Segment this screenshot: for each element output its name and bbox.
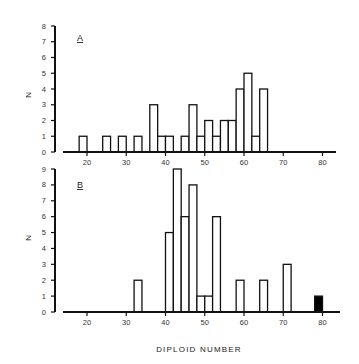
histogram-bar xyxy=(244,73,252,152)
panel-b-label: B xyxy=(77,180,83,190)
x-tick-label: 50 xyxy=(201,158,209,167)
x-tick-label: 80 xyxy=(318,318,326,327)
histogram-bar xyxy=(197,296,205,312)
x-tick-label: 50 xyxy=(201,318,209,327)
x-tick-label: 20 xyxy=(83,318,91,327)
histogram-bar xyxy=(228,121,236,153)
y-tick-label: 3 xyxy=(42,260,46,269)
x-tick-label: 40 xyxy=(161,158,169,167)
y-tick-label: 8 xyxy=(42,22,46,31)
x-tick-label: 20 xyxy=(83,158,91,167)
x-tick-label: 40 xyxy=(161,318,169,327)
histogram-bar xyxy=(205,121,213,153)
histogram-bar xyxy=(315,296,323,312)
histogram-bar xyxy=(150,105,158,152)
y-axis-title-a: N xyxy=(24,92,33,99)
histogram-bar xyxy=(189,105,197,152)
x-tick-label: 70 xyxy=(279,158,287,167)
histogram-bar xyxy=(103,136,111,152)
histogram-bar xyxy=(79,136,87,152)
panel-a-histogram: 01234567820304050607080 xyxy=(42,22,336,167)
x-tick-label: 60 xyxy=(240,158,248,167)
histogram-bar xyxy=(213,217,221,312)
y-tick-label: 7 xyxy=(42,196,46,205)
y-tick-label: 5 xyxy=(42,228,46,237)
y-tick-label: 4 xyxy=(42,244,46,253)
y-tick-label: 6 xyxy=(42,53,46,62)
panel-a-label: A xyxy=(77,33,83,43)
x-tick-label: 30 xyxy=(122,158,130,167)
y-tick-label: 1 xyxy=(42,292,46,301)
histogram-bar xyxy=(118,136,126,152)
histogram-bar xyxy=(260,89,268,152)
histogram-bar xyxy=(205,296,213,312)
histogram-bar xyxy=(189,185,197,312)
histogram-bar xyxy=(252,136,260,152)
y-tick-label: 0 xyxy=(42,308,46,317)
x-tick-label: 70 xyxy=(279,318,287,327)
y-tick-label: 8 xyxy=(42,180,46,189)
x-tick-label: 80 xyxy=(318,158,326,167)
histogram-bar xyxy=(236,280,244,312)
x-tick-label: 60 xyxy=(240,318,248,327)
y-tick-label: 0 xyxy=(42,148,46,157)
y-tick-label: 2 xyxy=(42,276,46,285)
y-tick-label: 4 xyxy=(42,85,46,94)
histogram-bar xyxy=(197,136,205,152)
y-tick-label: 7 xyxy=(42,37,46,46)
histogram-bar xyxy=(134,280,142,312)
histogram-bar xyxy=(158,136,166,152)
y-axis-title-b: N xyxy=(24,235,33,242)
histogram-bar xyxy=(220,121,228,153)
y-tick-label: 6 xyxy=(42,212,46,221)
x-axis-title: DIPLOID NUMBER xyxy=(156,345,242,354)
y-tick-label: 3 xyxy=(42,100,46,109)
histogram-bar xyxy=(181,136,189,152)
histogram-bar xyxy=(213,136,221,152)
histogram-bar xyxy=(173,169,181,312)
y-tick-label: 5 xyxy=(42,69,46,78)
diploid-number-histograms: 01234567820304050607080 0123456789203040… xyxy=(0,0,359,364)
histogram-bar xyxy=(166,233,174,312)
histogram-bar xyxy=(134,136,142,152)
histogram-bar xyxy=(166,136,174,152)
y-tick-label: 1 xyxy=(42,132,46,141)
histogram-bar xyxy=(181,217,189,312)
histogram-bar xyxy=(236,89,244,152)
histogram-bar xyxy=(260,280,268,312)
y-tick-label: 2 xyxy=(42,116,46,125)
histogram-bar xyxy=(283,264,291,312)
panel-b-histogram: 012345678920304050607080 xyxy=(42,165,340,327)
y-tick-label: 9 xyxy=(42,165,46,174)
x-tick-label: 30 xyxy=(122,318,130,327)
